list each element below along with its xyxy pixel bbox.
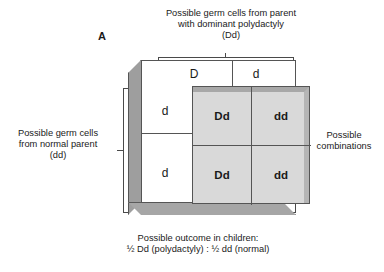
left-axis-caption: Possible germ cells from normal parent (… — [2, 128, 114, 162]
punnett-cell: dd — [252, 146, 310, 204]
column-header-D: D — [175, 67, 213, 81]
box-bottom-face-outline — [128, 202, 296, 230]
left-bracket-bar — [123, 88, 124, 213]
punnett-cell: dd — [252, 87, 310, 145]
right-axis-caption: Possible combinations — [306, 130, 382, 152]
top-bracket-bar — [158, 57, 294, 58]
panel-label: A — [98, 30, 106, 42]
bottom-outcome-caption: Possible outcome in children: ½ Dd (poly… — [74, 233, 322, 255]
row-header-d-2: d — [157, 166, 173, 180]
punnett-square-figure: A Possible germ cells from parent with d… — [0, 0, 384, 272]
punnett-3d-box: D d d d Dd dd Dd dd — [128, 60, 296, 228]
top-bracket-center-tick — [225, 53, 226, 58]
column-header-d: d — [237, 67, 275, 81]
punnett-grid: Dd dd Dd dd — [192, 86, 310, 204]
box-left-side-outline — [128, 60, 142, 216]
left-bracket — [117, 88, 128, 213]
box-front-face: D d d d Dd dd Dd dd — [141, 60, 296, 203]
top-axis-caption: Possible germ cells from parent with dom… — [126, 8, 336, 42]
punnett-cell: Dd — [193, 146, 251, 204]
row-header-d-1: d — [157, 104, 173, 118]
punnett-cell: Dd — [193, 87, 251, 145]
left-bracket-center-tick — [117, 150, 123, 151]
